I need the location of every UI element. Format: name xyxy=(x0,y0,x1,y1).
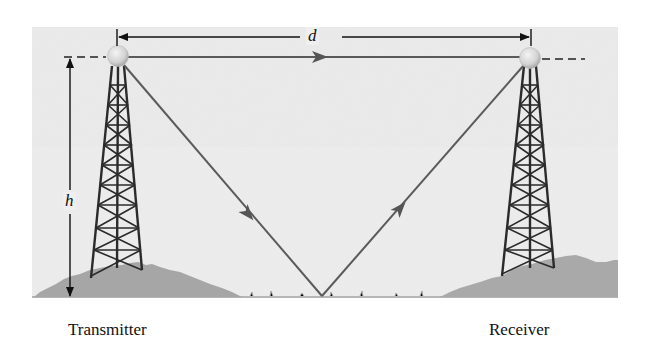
height-label: h xyxy=(63,192,76,210)
diagram-canvas: d h Transmitter Receiver xyxy=(0,0,650,342)
transmitter-antenna-ball-icon xyxy=(108,46,129,67)
transmitter-caption: Transmitter xyxy=(68,320,147,340)
receiver-antenna-ball-icon xyxy=(520,48,541,69)
diagram-svg xyxy=(0,0,650,342)
distance-label: d xyxy=(306,27,319,45)
receiver-caption: Receiver xyxy=(489,320,549,340)
